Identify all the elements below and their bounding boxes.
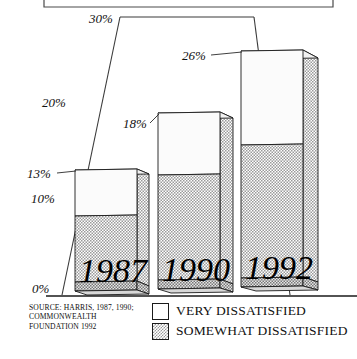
bar-group-1990[interactable]: 1990 xyxy=(158,112,233,293)
tick-label-0: 0% xyxy=(32,281,50,296)
tick-label-20: 20% xyxy=(42,95,66,110)
bar-label-1987: 1987 xyxy=(79,252,149,289)
source-note: SOURCE: HARRIS, 1987, 1990; COMMONWEALTH… xyxy=(29,303,151,331)
tick-label-10: 10% xyxy=(31,191,55,206)
leader-line-1987 xyxy=(57,171,76,173)
source-line-1: SOURCE: HARRIS, 1987, 1990; xyxy=(29,303,151,312)
value-label-1992: 26% xyxy=(182,48,206,63)
legend-label-very-dissatisfied: VERY DISSATISFIED xyxy=(176,303,306,319)
bar-1987-plinth-base xyxy=(75,290,149,295)
source-line-2: COMMONWEALTH xyxy=(29,312,151,321)
bar-group-1987[interactable]: 1987 xyxy=(75,169,149,295)
bar-group-1992[interactable]: 1992 xyxy=(241,50,318,291)
bar-1990-segment-very-dissatisfied xyxy=(158,112,220,175)
top-frame-border xyxy=(44,0,333,7)
bar-1992-side-face xyxy=(303,50,318,282)
bar-1992-segment-very-dissatisfied xyxy=(241,50,303,145)
legend-item-very-dissatisfied[interactable]: VERY DISSATISFIED xyxy=(152,301,348,321)
tick-label-13: 13% xyxy=(27,166,51,181)
chart-container: 1987 1990 1992 30% 20% 1 xyxy=(0,0,357,359)
legend-swatch-white-icon xyxy=(152,303,169,320)
source-line-3: FOUNDATION 1992 xyxy=(29,322,151,331)
bar-label-1990: 1990 xyxy=(162,251,230,288)
bar-1992-plinth-base xyxy=(241,286,318,291)
bar-1987-segment-very-dissatisfied xyxy=(75,169,137,216)
tick-label-30: 30% xyxy=(88,11,113,26)
value-callout-1992: 26% xyxy=(182,48,242,63)
bar-1990-plinth-base xyxy=(158,288,233,293)
legend-swatch-stipple-icon xyxy=(152,323,169,340)
bar-label-1992: 1992 xyxy=(245,249,313,286)
legend-label-somewhat-dissatisfied: SOMEWHAT DISSATISFIED xyxy=(176,323,348,339)
legend-item-somewhat-dissatisfied[interactable]: SOMEWHAT DISSATISFIED xyxy=(152,321,348,341)
value-label-1990: 18% xyxy=(123,116,147,131)
value-callout-1990: 18% xyxy=(123,114,159,131)
chart-legend: VERY DISSATISFIED SOMEWHAT DISSATISFIED xyxy=(152,301,348,341)
